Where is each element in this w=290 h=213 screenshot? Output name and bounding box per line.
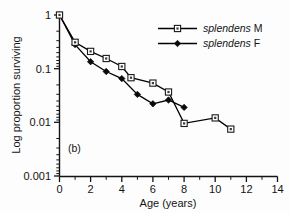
y-tick-label: 0.1	[36, 63, 51, 75]
y-tick-label: 0.001	[23, 170, 51, 182]
marker-center-dot	[214, 117, 216, 119]
marker-center-dot	[58, 14, 60, 16]
panel-label: (b)	[68, 142, 81, 154]
marker-center-dot	[74, 41, 76, 43]
series-F-markers	[56, 12, 187, 111]
legend-genus-m: splendens	[203, 22, 252, 34]
data-point-marker	[181, 104, 187, 110]
data-point-marker	[103, 68, 109, 74]
y-tick-labels: 1 0.1 0.01 0.001	[23, 9, 51, 182]
marker-center-dot	[167, 91, 169, 93]
x-tick-label: 6	[150, 183, 156, 195]
x-tick-label: 8	[181, 183, 187, 195]
chart-legend: splendens M splendens F	[158, 22, 263, 49]
marker-center-dot	[105, 57, 107, 59]
marker-center-dot	[230, 128, 232, 130]
marker-center-dot	[121, 65, 123, 67]
y-tick-label: 0.01	[30, 116, 51, 128]
marker-center-dot	[152, 82, 154, 84]
marker-center-dot	[90, 50, 92, 52]
x-axis-title: Age (years)	[140, 197, 197, 209]
legend-sex-f: F	[254, 37, 260, 49]
x-tick-label: 0	[56, 183, 62, 195]
legend-marker-center-dot	[176, 27, 178, 29]
x-tick-label: 10	[209, 183, 221, 195]
series-splendens-F	[56, 12, 187, 111]
marker-center-dot	[183, 122, 185, 124]
y-major-ticks	[54, 15, 60, 176]
marker-center-dot	[130, 77, 132, 79]
data-point-marker	[150, 101, 156, 107]
x-tick-label: 14	[271, 183, 283, 195]
legend-sex-m: M	[254, 22, 263, 34]
x-tick-label: 4	[119, 183, 125, 195]
legend-marker-filled-diamond	[174, 40, 180, 46]
legend-label-f: splendens F	[203, 37, 260, 49]
chart-svg: 1 0.1 0.01 0.001 0 2 4 6 8 10 12 14 Age …	[0, 0, 290, 213]
legend-item-splendens-m[interactable]: splendens M	[158, 22, 263, 34]
legend-item-splendens-f[interactable]: splendens F	[158, 37, 260, 49]
x-tick-label: 2	[88, 183, 94, 195]
y-axis-title: Log proportion surviving	[10, 36, 22, 153]
y-tick-label: 1	[45, 9, 51, 21]
x-tick-labels: 0 2 4 6 8 10 12 14	[56, 183, 283, 195]
legend-label-m: splendens M	[203, 22, 263, 34]
legend-genus-f: splendens	[203, 37, 252, 49]
chart-figure: 1 0.1 0.01 0.001 0 2 4 6 8 10 12 14 Age …	[0, 0, 290, 213]
x-tick-label: 12	[240, 183, 252, 195]
